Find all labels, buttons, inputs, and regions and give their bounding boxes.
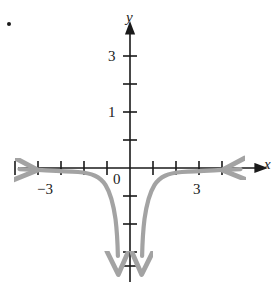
x-tick-label-neg3: −3 bbox=[37, 182, 53, 197]
coordinate-plane bbox=[0, 0, 277, 293]
x-tick-label-pos3: 3 bbox=[193, 182, 201, 197]
axis-lines bbox=[18, 33, 256, 282]
y-axis-label: y bbox=[126, 10, 133, 25]
curve-right-branch bbox=[142, 169, 240, 256]
curve-left-branch bbox=[20, 169, 118, 256]
y-tick-label-3: 3 bbox=[108, 49, 116, 64]
y-tick-label-1: 1 bbox=[108, 105, 116, 120]
origin-label: 0 bbox=[113, 172, 121, 187]
graph-figure: y x 0 −3 3 1 3 bbox=[0, 0, 277, 293]
x-axis-label: x bbox=[264, 157, 271, 172]
